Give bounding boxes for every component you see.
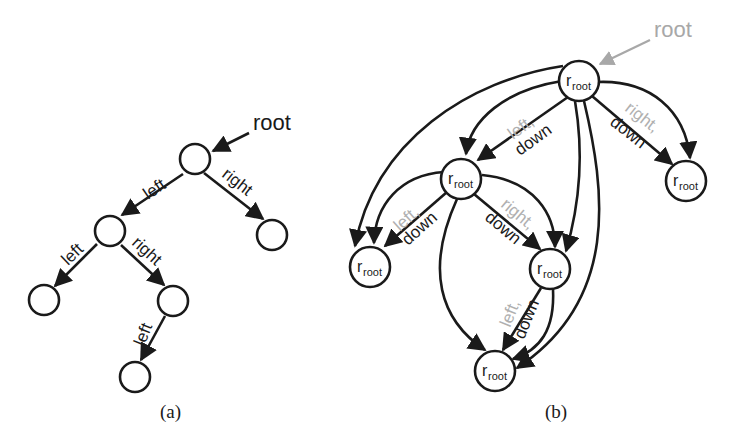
root-pointer-arrow <box>213 133 249 151</box>
graph-node-right: r root <box>666 161 706 201</box>
graph-node-top: r root <box>559 61 599 101</box>
tree-node-right <box>257 220 287 250</box>
tree-node-left <box>95 216 125 246</box>
edge-label-lr-left: left <box>130 320 156 348</box>
svg-text:root: root <box>679 180 698 192</box>
root-label: root <box>253 110 291 135</box>
diagram-svg: root left right left right left (a) root <box>0 0 735 445</box>
figure-canvas: root left right left right left (a) root <box>0 0 735 445</box>
caption-a: (a) <box>160 401 181 423</box>
tree-node-left-right-left <box>120 362 150 392</box>
tree-node-root <box>180 144 210 174</box>
graph-node-mid-right: r root <box>530 249 570 289</box>
root-pointer-arrow-gray <box>600 40 650 64</box>
edge-top-to-midright <box>566 101 580 251</box>
panel-b-graph: root left, down right, down left, down r… <box>350 17 706 423</box>
edge-midleft-to-bottom <box>440 199 485 350</box>
svg-text:root: root <box>454 178 473 190</box>
tree-node-left-left <box>29 285 59 315</box>
graph-node-mid-left: r root <box>441 159 481 199</box>
edge-label-root-right: right <box>219 164 257 200</box>
root-label-gray: root <box>654 17 692 42</box>
svg-text:root: root <box>363 266 382 278</box>
caption-b: (b) <box>545 401 567 423</box>
svg-text:root: root <box>572 80 591 92</box>
tree-node-left-right <box>158 286 188 316</box>
svg-text:root: root <box>488 370 507 382</box>
svg-text:root: root <box>543 268 562 280</box>
graph-node-far-left: r root <box>350 247 390 287</box>
graph-node-bottom: r root <box>475 351 515 391</box>
edge-label-l-left: left <box>58 239 88 269</box>
edge-label-l-right: right <box>128 233 165 269</box>
panel-a-tree: root left right left right left (a) <box>29 110 291 423</box>
